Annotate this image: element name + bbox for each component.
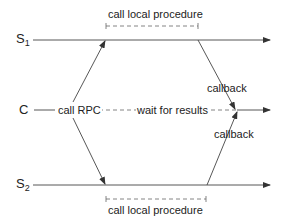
server-s2-label: S2: [16, 177, 30, 195]
callback-bottom-label: callback: [213, 128, 255, 140]
rpc-arrow-to-s1: [73, 41, 105, 102]
client-c-label: C: [19, 103, 28, 117]
callback-arrow-from-s2: [207, 112, 237, 185]
wait-for-results-label: wait for results: [136, 104, 209, 116]
server-s1-label: S1: [16, 32, 30, 50]
callback-top-label: callback: [206, 82, 248, 94]
top-procedure-label: call local procedure: [107, 8, 204, 20]
callback-arrow-from-s1: [198, 40, 235, 109]
bottom-procedure-label: call local procedure: [107, 204, 204, 216]
rpc-timeline-diagram: S1 C S2 call local procedure call local …: [0, 0, 282, 221]
call-rpc-label: call RPC: [57, 104, 102, 116]
rpc-arrow-to-s2: [73, 118, 105, 184]
